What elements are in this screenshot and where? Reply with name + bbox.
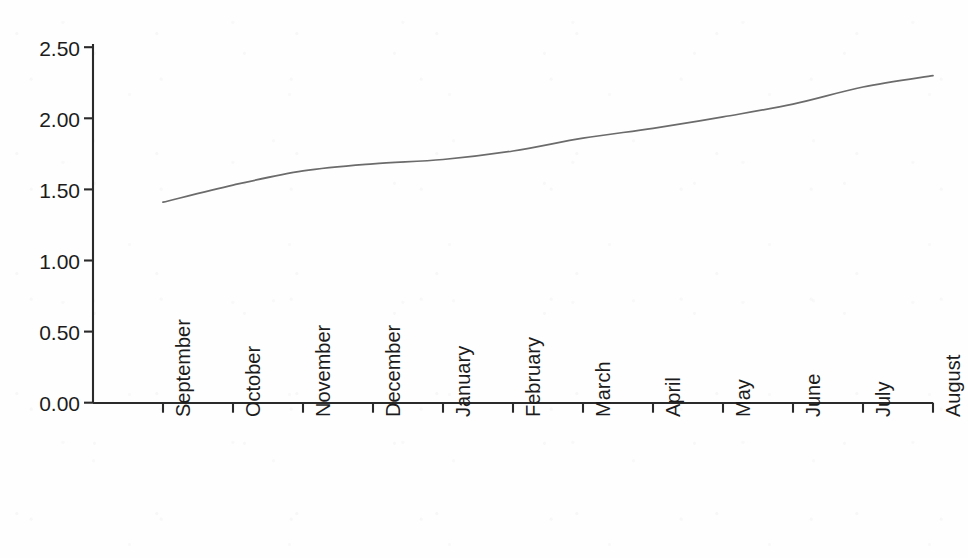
x-tick-label-september: September [172,319,195,417]
y-tick-label: 1.50 [2,179,80,203]
x-tick-label-november: November [312,324,335,416]
data-series-line [163,76,933,203]
y-tick-label: 0.00 [2,392,80,416]
y-tick-label: 0.50 [2,321,80,345]
x-tick-label-april: April [662,377,685,417]
x-tick-label-march: March [592,361,615,417]
chart-figure: 0.00 0.50 1.00 1.50 2.00 2.50 September … [0,0,968,558]
x-tick-label-february: February [522,337,545,417]
y-axis-ticks [84,47,93,403]
y-tick-label: 2.50 [2,37,80,61]
x-tick-label-october: October [242,346,265,417]
x-tick-label-december: December [382,324,405,416]
x-tick-label-june: June [802,373,825,416]
y-tick-label: 1.00 [2,250,80,274]
x-tick-label-january: January [452,346,475,417]
axis-lines [93,44,933,403]
x-tick-label-july: July [872,381,895,417]
line-chart-plot [0,0,968,558]
x-tick-label-august: August [942,354,965,416]
y-tick-label: 2.00 [2,108,80,132]
x-tick-label-may: May [732,379,755,417]
